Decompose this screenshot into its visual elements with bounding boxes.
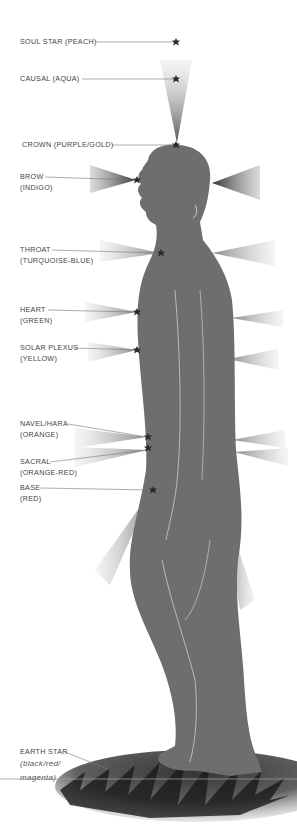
label-sacral: SACRAL (ORANGE-RED) — [20, 456, 77, 478]
label-causal-name: CAUSAL (AQUA) — [20, 74, 80, 83]
sacral-cone-front — [75, 447, 147, 467]
label-solar-plexus-color: (YELLOW) — [20, 353, 78, 364]
label-base-color: (RED) — [20, 493, 41, 504]
label-navel-color: (ORANGE) — [20, 429, 68, 440]
label-throat-color: (TURQUOISE-BLUE) — [20, 255, 94, 266]
diagram-canvas — [0, 0, 297, 830]
brow-cone-back — [212, 165, 260, 200]
label-earth-star-color-2: magenta) — [20, 771, 68, 785]
label-throat-name: THROAT — [20, 245, 51, 254]
label-heart: HEART (GREEN) — [20, 304, 52, 326]
label-throat: THROAT (TURQUOISE-BLUE) — [20, 244, 94, 266]
label-soul-star-name: SOUL STAR (PEACH) — [20, 37, 97, 46]
navel-cone-back — [232, 430, 285, 448]
label-brow-name: BROW — [20, 172, 44, 181]
label-earth-star-name: EARTH STAR — [20, 747, 68, 756]
human-figure — [130, 145, 262, 776]
label-sacral-name: SACRAL — [20, 457, 51, 466]
label-earth-star-color-1: (black/red/ — [20, 757, 68, 771]
crown-cone — [160, 60, 192, 143]
label-solar-plexus-name: SOLAR PLEXUS — [20, 343, 78, 352]
solar-cone-back — [228, 349, 278, 370]
label-causal: CAUSAL (AQUA) — [20, 73, 80, 84]
label-crown: CROWN (PURPLE/GOLD) — [22, 139, 114, 150]
solar-cone-front — [88, 342, 137, 362]
heart-cone-back — [231, 310, 283, 327]
label-navel-name: NAVEL/HARA — [20, 419, 68, 428]
leader-base — [40, 488, 152, 490]
label-solar-plexus: SOLAR PLEXUS (YELLOW) — [20, 342, 78, 364]
chakra-diagram: SOUL STAR (PEACH) CAUSAL (AQUA) CROWN (P… — [0, 0, 297, 830]
label-base: BASE (RED) — [20, 482, 41, 504]
label-brow-color: (INDIGO) — [20, 182, 53, 193]
label-heart-name: HEART — [20, 305, 46, 314]
label-brow: BROW (INDIGO) — [20, 171, 53, 193]
throat-cone-back — [212, 240, 275, 266]
label-sacral-color: (ORANGE-RED) — [20, 467, 77, 478]
label-base-name: BASE — [20, 483, 40, 492]
label-navel: NAVEL/HARA (ORANGE) — [20, 418, 68, 440]
label-soul-star: SOUL STAR (PEACH) — [20, 36, 97, 47]
label-crown-name: CROWN (PURPLE/GOLD) — [22, 140, 114, 149]
label-heart-color: (GREEN) — [20, 315, 52, 326]
sacral-cone-back — [234, 448, 288, 466]
label-earth-star: EARTH STAR (black/red/ magenta) — [20, 746, 68, 785]
